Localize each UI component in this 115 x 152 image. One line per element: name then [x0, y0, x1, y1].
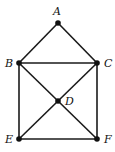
- edge-C-D: [58, 63, 97, 101]
- node-label-F: F: [103, 133, 112, 146]
- node-F: [94, 136, 100, 142]
- node-label-C: C: [104, 57, 113, 70]
- node-B: [16, 60, 22, 66]
- graph-diagram: ABCDEF: [0, 0, 115, 152]
- node-D: [55, 98, 61, 104]
- edge-B-D: [19, 63, 58, 101]
- node-A: [55, 20, 61, 26]
- edges: [19, 23, 97, 139]
- nodes: [16, 20, 100, 142]
- edge-D-E: [19, 101, 58, 139]
- node-label-D: D: [64, 95, 74, 108]
- node-label-E: E: [4, 133, 13, 146]
- edge-A-C: [58, 23, 97, 63]
- node-E: [16, 136, 22, 142]
- edge-D-F: [58, 101, 97, 139]
- node-label-B: B: [4, 57, 13, 70]
- node-C: [94, 60, 100, 66]
- node-label-A: A: [52, 5, 61, 18]
- edge-A-B: [19, 23, 58, 63]
